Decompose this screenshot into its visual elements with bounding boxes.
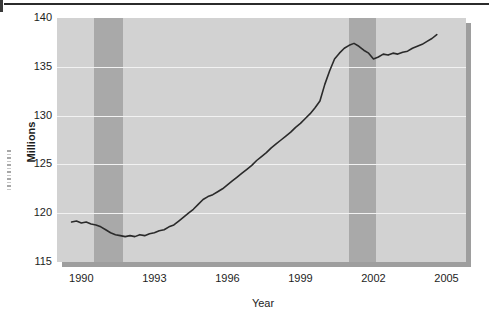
y-tick-label-115: 115	[8, 256, 52, 267]
y-tick-label-120: 120	[8, 207, 52, 218]
y-tick-label-135: 135	[8, 61, 52, 72]
y-tick-label-140: 140	[8, 12, 52, 23]
x-tick-label-2002: 2002	[343, 272, 403, 284]
x-tick-label-1999: 1999	[270, 272, 330, 284]
x-tick-label-1996: 1996	[197, 272, 257, 284]
x-tick-label-1990: 1990	[51, 272, 111, 284]
y-axis-label: Millions	[25, 102, 37, 182]
page-top-rule	[4, 3, 489, 5]
x-tick-label-2005: 2005	[417, 272, 477, 284]
chart-figure: 115120125130135140 199019931996199920022…	[0, 0, 489, 326]
data-series-line	[57, 18, 466, 262]
x-tick-label-1993: 1993	[124, 272, 184, 284]
plot-area	[57, 18, 466, 262]
x-axis-label: Year	[233, 297, 293, 309]
